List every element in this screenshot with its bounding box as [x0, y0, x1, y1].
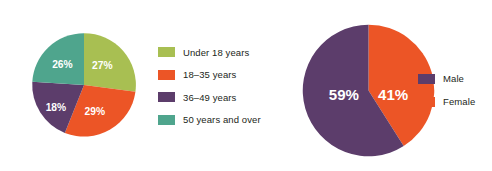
- pie-slice-label-18-35: 29%: [85, 106, 106, 117]
- legend-label-18-35: 18–35 years: [183, 69, 236, 80]
- gender-legend: Male Female: [418, 67, 475, 113]
- legend-item-36-49[interactable]: 36–49 years: [158, 86, 261, 109]
- legend-item-18-35[interactable]: 18–35 years: [158, 64, 261, 87]
- pie-slice-label-male: 59%: [329, 86, 359, 103]
- legend-label-under-18: Under 18 years: [183, 47, 249, 58]
- legend-swatch-icon-50-over: [158, 115, 175, 125]
- legend-item-male[interactable]: Male: [418, 67, 475, 90]
- legend-item-female[interactable]: Female: [418, 90, 475, 113]
- legend-label-50-over: 50 years and over: [183, 114, 261, 125]
- age-pie-svg: 27% 29% 18% 26%: [30, 31, 138, 139]
- age-pie-graphic: 27% 29% 18% 26%: [30, 31, 138, 139]
- legend-swatch-icon-female: [418, 97, 435, 107]
- legend-item-50-over[interactable]: 50 years and over: [158, 109, 261, 132]
- legend-swatch-icon-under-18: [158, 47, 175, 57]
- pie-slice-label-female: 41%: [378, 86, 408, 103]
- pie-slice-label-under-18: 27%: [92, 60, 113, 71]
- pie-slice-label-36-49: 18%: [46, 102, 67, 113]
- legend-label-male: Male: [443, 73, 464, 84]
- age-pie-chart: 27% 29% 18% 26% Under 18 years 18–35 yea…: [0, 0, 282, 171]
- pie-slice-label-50-over: 26%: [52, 59, 73, 70]
- legend-item-under-18[interactable]: Under 18 years: [158, 41, 261, 64]
- figure-two-pie-charts: 27% 29% 18% 26% Under 18 years 18–35 yea…: [0, 0, 492, 171]
- legend-label-36-49: 36–49 years: [183, 92, 236, 103]
- legend-label-female: Female: [443, 96, 475, 107]
- gender-pie-chart: 41% 59% Male Female: [282, 0, 492, 171]
- age-legend: Under 18 years 18–35 years 36–49 years 5…: [158, 41, 261, 131]
- legend-swatch-icon-male: [418, 74, 435, 84]
- legend-swatch-icon-18-35: [158, 70, 175, 80]
- gender-pie-svg: 41% 59%: [300, 22, 437, 159]
- gender-pie-graphic: 41% 59%: [300, 22, 437, 159]
- legend-swatch-icon-36-49: [158, 92, 175, 102]
